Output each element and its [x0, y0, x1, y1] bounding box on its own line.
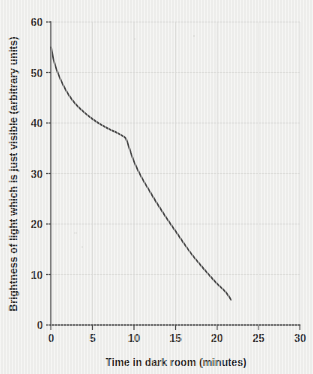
- axis-ticks: [46, 22, 300, 330]
- paper-speck: [193, 35, 195, 37]
- paper-speck: [81, 246, 83, 248]
- y-tick-label: 20: [31, 218, 43, 230]
- y-tick-label: 60: [31, 16, 43, 28]
- y-tick-label: 30: [31, 168, 43, 180]
- x-tick-label: 25: [252, 332, 264, 344]
- x-tick-labels: 051015202530: [48, 332, 306, 344]
- y-tick-label: 50: [31, 67, 43, 79]
- y-tick-label: 0: [37, 319, 43, 331]
- x-tick-label: 15: [169, 332, 181, 344]
- grid-lines: [51, 22, 300, 325]
- chart-figure: 051015202530 0102030405060 Time in dark …: [0, 0, 313, 374]
- chart-canvas: 051015202530 0102030405060 Time in dark …: [0, 0, 313, 374]
- y-tick-label: 10: [31, 269, 43, 281]
- x-tick-label: 30: [294, 332, 306, 344]
- paper-speck: [134, 38, 136, 40]
- y-tick-label: 40: [31, 117, 43, 129]
- x-axis-title: Time in dark room (minutes): [106, 356, 247, 368]
- x-tick-label: 20: [211, 332, 223, 344]
- x-tick-label: 10: [128, 332, 140, 344]
- y-axis-title: Brightness of light which is just visibl…: [7, 37, 19, 312]
- x-tick-label: 5: [89, 332, 95, 344]
- y-tick-labels: 0102030405060: [31, 16, 43, 331]
- x-tick-label: 0: [48, 332, 54, 344]
- paper-speck: [74, 232, 77, 234]
